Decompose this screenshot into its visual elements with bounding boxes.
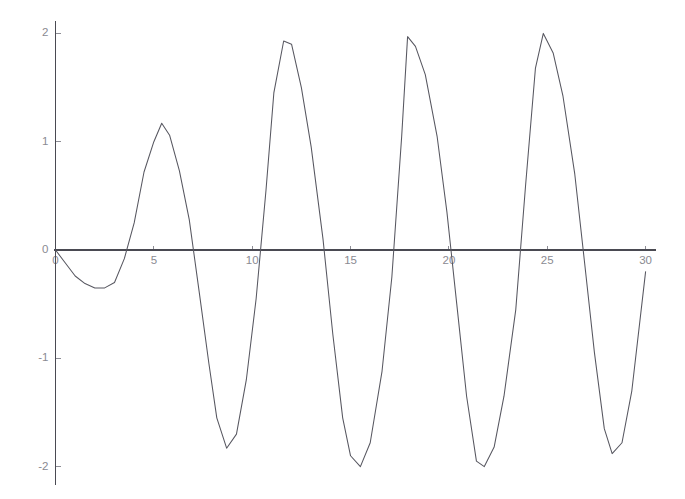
x-axis-ticks: 051015202530 bbox=[52, 246, 652, 266]
x-tick-label: 15 bbox=[344, 254, 357, 266]
y-tick-label: 2 bbox=[42, 26, 48, 38]
y-tick-label: -1 bbox=[38, 351, 48, 363]
y-axis-ticks: -2-1012 bbox=[38, 26, 60, 471]
x-tick-label: 25 bbox=[541, 254, 554, 266]
x-tick-label: 30 bbox=[639, 254, 652, 266]
plot-canvas: -2-1012 051015202530 bbox=[0, 0, 685, 499]
y-tick-label: -2 bbox=[38, 460, 48, 472]
x-tick-label: 5 bbox=[151, 254, 157, 266]
y-tick-label: 0 bbox=[42, 243, 48, 255]
x-tick-label: 10 bbox=[246, 254, 259, 266]
y-tick-label: 1 bbox=[42, 135, 48, 147]
chart-figure: -2-1012 051015202530 bbox=[0, 0, 685, 499]
x-tick-label: 20 bbox=[443, 254, 456, 266]
